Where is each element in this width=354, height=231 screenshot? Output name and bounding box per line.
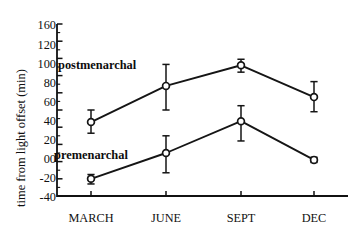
series-premenarchal [87, 106, 317, 184]
chart-figure: time from light offset (min) 160 120 100… [0, 0, 354, 231]
series-postmenarchal [87, 59, 317, 133]
data-point-marker [311, 156, 318, 163]
data-point-marker [238, 62, 245, 69]
data-point-marker [163, 83, 170, 90]
data-point-marker [163, 150, 170, 157]
axis-spines [57, 24, 348, 196]
plot-area [0, 0, 354, 231]
series-line [91, 65, 314, 122]
series-line [91, 121, 314, 179]
data-point-marker [88, 119, 95, 126]
data-point-marker [88, 175, 95, 182]
data-point-marker [311, 94, 318, 101]
data-point-marker [238, 118, 245, 125]
